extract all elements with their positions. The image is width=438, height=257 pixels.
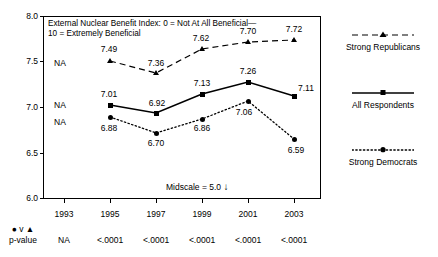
value-label-strong-democrats-1995: 6.88 (96, 124, 122, 133)
value-label-strong-republicans-1999: 7.62 (188, 34, 214, 43)
pvalue-cell-2003: <.0001 (277, 235, 311, 245)
legend-sample-strong-democrats (352, 145, 414, 155)
value-label-strong-republicans-2003: 7.72 (281, 25, 307, 34)
down-arrow-icon: ↓ (223, 181, 228, 192)
pvalue-row-name-label: p-value (3, 235, 43, 245)
value-label-all-respondents-1997: 6.92 (144, 99, 170, 108)
x-tick-mark-1995 (110, 199, 111, 203)
marker-strong-republicans-2003 (291, 37, 297, 42)
marker-all-respondents-2001 (246, 80, 251, 85)
marker-all-respondents-2003 (292, 94, 297, 99)
marker-strong-democrats-1997 (154, 131, 159, 136)
x-tick-mark-1999 (202, 199, 203, 203)
marker-strong-republicans-2001 (245, 39, 251, 44)
value-label-strong-democrats-1999: 6.86 (189, 124, 215, 133)
line-strong-republicans (110, 40, 294, 73)
value-label-all-respondents-2003: 7.11 (293, 84, 319, 93)
midscale-text: Midscale = 5.0 (166, 182, 221, 192)
pvalue-cell-1999: <.0001 (185, 235, 219, 245)
x-tick-mark-2003 (294, 199, 295, 203)
pvalue-cell-1993: NA (49, 235, 79, 245)
x-tick-label-1999: 1999 (187, 209, 217, 219)
value-label-all-respondents-1995: 7.01 (96, 90, 122, 99)
legend-sample-all-respondents (352, 88, 414, 98)
pvalue-row-symbol-label: ● v ▲ (3, 224, 43, 234)
marker-all-respondents-1995 (108, 103, 113, 108)
value-label-strong-republicans-2001: 7.70 (235, 27, 261, 36)
legend-label-strong-republicans: Strong Republicans (345, 42, 421, 52)
midscale-annotation: Midscale = 5.0 ↓ (166, 182, 228, 192)
marker-strong-republicans-1997 (153, 70, 159, 75)
x-tick-label-2003: 2003 (279, 209, 309, 219)
marker-strong-republicans-1999 (199, 46, 205, 51)
marker-strong-republicans-1995 (107, 58, 113, 63)
marker-all-respondents-1999 (200, 92, 205, 97)
value-label-all-respondents-1999: 7.13 (189, 79, 215, 88)
legend-label-all-respondents: All Respondents (348, 100, 418, 110)
pvalue-cell-1995: <.0001 (93, 235, 127, 245)
marker-strong-democrats-2001 (246, 99, 251, 104)
value-label-strong-democrats-2001: 7.06 (231, 108, 257, 117)
value-label-strong-democrats-1997: 6.70 (143, 139, 169, 148)
value-label-strong-republicans-1995: 7.49 (96, 45, 122, 54)
chart-root: 8.0 7.5 7.0 6.5 6.0 External Nuclear Ben… (0, 0, 438, 257)
x-tick-mark-1993 (64, 199, 65, 203)
marker-strong-democrats-1999 (200, 117, 205, 122)
x-tick-label-1997: 1997 (141, 209, 171, 219)
x-tick-label-1995: 1995 (95, 209, 125, 219)
legend-sample-strong-republicans (352, 30, 414, 40)
value-label-all-respondents-2001: 7.26 (235, 67, 261, 76)
pvalue-cell-1997: <.0001 (139, 235, 173, 245)
marker-all-respondents-1997 (154, 111, 159, 116)
x-tick-label-2001: 2001 (233, 209, 263, 219)
marker-strong-democrats-1995 (108, 115, 113, 120)
marker-strong-democrats-2003 (292, 137, 297, 142)
legend-label-strong-democrats: Strong Democrats (346, 157, 420, 167)
value-label-strong-republicans-1997: 7.36 (143, 59, 169, 68)
x-tick-mark-2001 (248, 199, 249, 203)
x-tick-label-1993: 1993 (49, 209, 79, 219)
value-label-strong-democrats-2003: 6.59 (283, 146, 309, 155)
x-tick-mark-1997 (156, 199, 157, 203)
pvalue-cell-2001: <.0001 (231, 235, 265, 245)
